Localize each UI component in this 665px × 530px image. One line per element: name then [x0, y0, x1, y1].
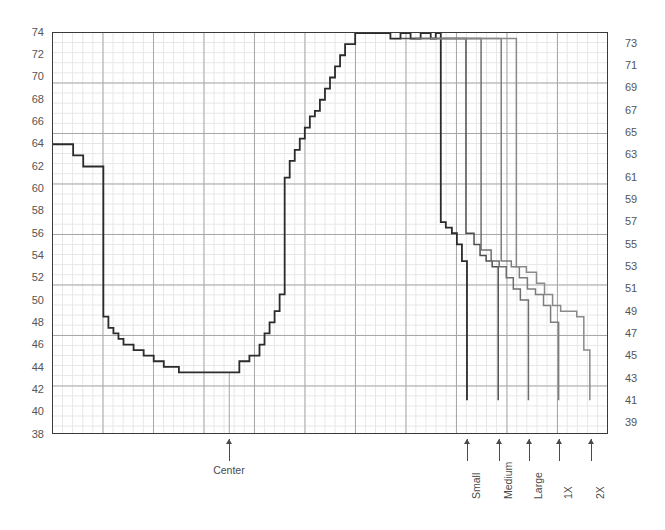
annotation-label: Center — [213, 465, 245, 476]
y-tick-right: 43 — [625, 373, 637, 384]
y-tick-left: 70 — [6, 71, 44, 82]
annotation-label: 2X — [595, 486, 606, 499]
y-tick-left: 52 — [6, 272, 44, 283]
y-tick-right: 59 — [625, 194, 637, 205]
y-tick-left: 58 — [6, 205, 44, 216]
y-tick-left: 60 — [6, 183, 44, 194]
series-line — [431, 39, 559, 401]
annotation-label: Small — [471, 473, 482, 499]
y-tick-left: 74 — [6, 27, 44, 38]
y-tick-left: 42 — [6, 384, 44, 395]
y-tick-right: 41 — [625, 395, 637, 406]
y-tick-left: 40 — [6, 406, 44, 417]
plot-area — [52, 32, 608, 434]
arrow-up-icon — [467, 439, 468, 461]
arrow-up-icon — [559, 439, 560, 461]
arrow-up-icon — [591, 439, 592, 461]
y-tick-right: 51 — [625, 283, 637, 294]
series-line — [53, 33, 467, 400]
series-line — [416, 39, 529, 401]
y-tick-right: 49 — [625, 306, 637, 317]
y-tick-right: 73 — [625, 38, 637, 49]
arrow-up-icon — [499, 439, 500, 461]
annotation-label: Large — [533, 472, 544, 499]
y-tick-right: 47 — [625, 328, 637, 339]
arrow-up-icon — [229, 439, 230, 461]
annotation-label: Medium — [503, 462, 514, 499]
annotation-label: 1X — [563, 486, 574, 499]
y-axis-left: 38404244464850525456586062646668707274 — [0, 0, 44, 530]
y-tick-left: 56 — [6, 228, 44, 239]
y-tick-left: 54 — [6, 250, 44, 261]
y-axis-right: 394143454749515355575961636567697173 — [616, 0, 661, 530]
y-tick-right: 61 — [625, 172, 637, 183]
arrow-up-icon — [529, 439, 530, 461]
series-line — [400, 39, 498, 401]
y-tick-right: 63 — [625, 149, 637, 160]
y-tick-right: 69 — [625, 82, 637, 93]
y-tick-left: 38 — [6, 429, 44, 440]
y-tick-left: 48 — [6, 317, 44, 328]
y-tick-right: 57 — [625, 216, 637, 227]
y-tick-right: 55 — [625, 239, 637, 250]
y-tick-left: 66 — [6, 116, 44, 127]
y-tick-left: 44 — [6, 362, 44, 373]
y-tick-right: 67 — [625, 105, 637, 116]
y-tick-left: 64 — [6, 138, 44, 149]
y-tick-left: 72 — [6, 49, 44, 60]
y-tick-right: 39 — [625, 417, 637, 428]
y-tick-right: 45 — [625, 350, 637, 361]
y-tick-right: 53 — [625, 261, 637, 272]
y-tick-right: 65 — [625, 127, 637, 138]
chart-root: 38404244464850525456586062646668707274 3… — [0, 0, 665, 530]
y-tick-left: 50 — [6, 295, 44, 306]
series-layer — [53, 33, 607, 434]
y-tick-right: 71 — [625, 60, 637, 71]
y-tick-left: 68 — [6, 94, 44, 105]
y-tick-left: 62 — [6, 161, 44, 172]
y-tick-left: 46 — [6, 339, 44, 350]
